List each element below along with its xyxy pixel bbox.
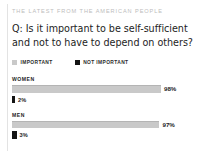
left-vertical-rule (7, 4, 8, 151)
bar-men-important (12, 121, 159, 129)
legend-swatch-not-important-icon (75, 60, 80, 65)
bar-row-women-important: 98% (12, 85, 200, 93)
bar-value-men-important: 97% (162, 121, 174, 129)
bar-value-women-not-important: 2% (18, 96, 26, 104)
bar-row-women-not-important: 2% (12, 96, 200, 104)
legend-item-not-important: NOT IMPORTANT (75, 60, 129, 66)
bar-row-men-important: 97% (12, 121, 200, 129)
group-men: MEN 97% 3% (12, 112, 200, 140)
bar-men-not-important (12, 131, 17, 139)
bar-row-men-not-important: 3% (12, 131, 200, 139)
chart-legend: IMPORTANT NOT IMPORTANT (12, 58, 200, 67)
group-women: WOMEN 98% 2% (12, 76, 200, 104)
legend-label-not-important: NOT IMPORTANT (83, 60, 128, 66)
infographic-card: THE LATEST FROM THE AMERICAN PEOPLE Q: I… (0, 0, 202, 155)
kicker-text: THE LATEST FROM THE AMERICAN PEOPLE (12, 7, 200, 15)
legend-item-important: IMPORTANT (12, 60, 53, 66)
legend-label-important: IMPORTANT (21, 60, 53, 66)
group-label-men: MEN (12, 112, 200, 119)
question-title: Q: Is it important to be self-sufficient… (12, 22, 198, 49)
bar-women-not-important (12, 96, 15, 104)
group-label-women: WOMEN (12, 76, 200, 83)
bar-value-women-important: 98% (164, 85, 176, 93)
bar-women-important (12, 85, 161, 93)
bar-value-men-not-important: 3% (20, 131, 28, 139)
legend-swatch-important-icon (12, 60, 17, 65)
card-content: THE LATEST FROM THE AMERICAN PEOPLE Q: I… (12, 0, 200, 139)
